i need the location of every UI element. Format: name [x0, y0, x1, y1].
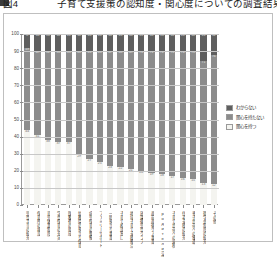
y-axis-tickmark [20, 68, 23, 69]
legend-label: 関心を持つ [236, 124, 256, 129]
legend-item: 関心を持たない [226, 114, 276, 121]
bar-segment-value: 13 [200, 183, 206, 187]
bar-segment: 53 [55, 51, 61, 142]
bar-segment: 10 [66, 34, 72, 51]
x-axis-category-label: 一時預かり事業 [108, 211, 113, 257]
x-axis-category-label: 子育て相談窓口 [118, 211, 123, 257]
y-axis-tickmark [20, 120, 23, 121]
bar-segment: 10 [97, 34, 103, 51]
x-axis-tickmark [193, 205, 194, 208]
y-axis-tick-label: 100 [7, 31, 19, 36]
y-axis-tickmark [20, 188, 23, 189]
x-axis-tickmark [214, 205, 215, 208]
gridline [22, 102, 219, 103]
x-axis-tickmark [162, 205, 163, 208]
x-axis-tickmark [100, 205, 101, 208]
bar-segment-value: 23 [107, 166, 113, 170]
bar-segment: 75 [190, 51, 196, 179]
bar-segment: 10 [45, 34, 51, 51]
y-axis-tickmark [20, 51, 23, 52]
bar-segment: 10 [148, 34, 154, 51]
x-axis-category-label: 医療費の助成 [66, 211, 71, 257]
y-axis-tick-label: 90 [7, 49, 19, 54]
bar-segment: 17 [169, 176, 175, 205]
legend-item: わからない [226, 104, 276, 111]
x-axis-tickmark [183, 205, 184, 208]
gridline [22, 85, 219, 86]
x-axis-category-label: 育児休業制度 [46, 211, 51, 257]
y-axis-tickmark [20, 205, 23, 206]
x-axis-tickmark [38, 205, 39, 208]
bar-segment: 10 [169, 34, 175, 51]
gridline [22, 51, 219, 52]
gridline [22, 137, 219, 138]
y-axis-tickmark [20, 102, 23, 103]
bar-segment: 18 [159, 174, 165, 205]
bar-segment: 10 [117, 34, 123, 51]
bar-segment-value: 15 [190, 179, 196, 183]
bar-segment-value: 29 [76, 155, 82, 159]
bar-segment: 10 [107, 34, 113, 51]
x-axis-tickmark [79, 205, 80, 208]
bar-segment-value: 38 [45, 140, 51, 144]
bar-segment-value: 76 [211, 55, 217, 59]
x-axis-category-label: 住宅支援の拡充 [180, 211, 185, 257]
x-axis-category-label: 学童保育の充実 [56, 211, 61, 257]
bar-segment: 10 [180, 34, 186, 51]
gridline [22, 34, 219, 35]
bar-segment: 10 [34, 34, 40, 51]
y-axis-tickmark [20, 171, 23, 172]
y-axis-tickmark [20, 34, 23, 35]
y-axis-tick-label: 20 [7, 168, 19, 173]
bar-segment: 15 [190, 179, 196, 205]
y-axis-tick-label: 30 [7, 151, 19, 156]
gridline [22, 68, 219, 69]
bar-segment: 49 [34, 51, 40, 135]
x-axis-category-label: 奨学金制度の拡充 [201, 211, 206, 257]
y-axis-tickmark [20, 154, 23, 155]
bar-segment-value: 25 [97, 162, 103, 166]
bar-segment-value: 19 [148, 173, 154, 177]
x-axis-tickmark [172, 205, 173, 208]
bar-segment: 10 [190, 34, 196, 51]
x-axis-tickmark [89, 205, 90, 208]
bar-segment: 38 [45, 140, 51, 205]
x-axis-tickmark [131, 205, 132, 208]
legend-label: 関心を持たない [236, 115, 264, 120]
y-axis-tick-label: 10 [7, 185, 19, 190]
bar-segment: 74 [180, 51, 186, 178]
x-axis-category-label: 多子世帯への優遇 [191, 211, 196, 257]
bar-segment-value: 37 [55, 142, 61, 146]
bar-segment: 37 [55, 142, 61, 205]
x-axis-category-label: 保育所の増設 [35, 211, 40, 257]
bar-segment: 72 [159, 51, 165, 174]
y-axis-tick-label: 70 [7, 83, 19, 88]
bar-segment: 10 [128, 34, 134, 51]
bar-segment: 10 [138, 34, 144, 51]
bar-segment: 53 [66, 51, 72, 142]
y-axis-tick-label: 0 [7, 202, 19, 207]
bar-segment: 44 [24, 130, 30, 205]
chart-frame: 4448841491038521037531037531029611027631… [3, 13, 273, 242]
x-axis-category-label: ファミリーサポート [97, 211, 102, 257]
bar-segment: 8 [24, 34, 30, 48]
bar-segment: 13 [200, 183, 206, 205]
x-axis-tickmark [69, 205, 70, 208]
x-axis-category-label: 子育て世帯への減税 [170, 211, 175, 257]
y-axis-tickmark [20, 85, 23, 86]
bar-segment: 10 [86, 34, 92, 51]
y-axis-tickmark [20, 137, 23, 138]
x-axis-tickmark [110, 205, 111, 208]
gridline [22, 120, 219, 121]
gridline [22, 154, 219, 155]
legend-label: わからない [236, 105, 256, 110]
legend-swatch [226, 124, 233, 130]
x-axis-category-label: 産前産後ケア事業 [149, 211, 154, 257]
bar-segment-value: 27 [86, 159, 92, 163]
y-axis-tick-label: 40 [7, 134, 19, 139]
bar-segment: 48 [24, 48, 30, 130]
bar-segment: 10 [76, 34, 82, 51]
x-axis-tickmark [121, 205, 122, 208]
bar-segment: 73 [169, 51, 175, 176]
